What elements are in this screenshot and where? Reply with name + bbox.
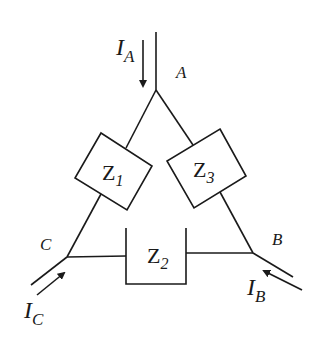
current-b-label: IB (246, 274, 266, 306)
node-a-label: A (175, 63, 187, 82)
node-c-label: C (40, 235, 52, 254)
wire-a-z1 (126, 90, 156, 148)
node-b-label: B (272, 230, 283, 249)
wire-z1-c (67, 194, 101, 257)
wire-c-z2 (67, 256, 126, 257)
current-b-arrow (264, 271, 302, 290)
current-a-label: IA (115, 34, 135, 66)
delta-circuit-diagram: IA A Z1 Z3 Z2 C IC B IB (0, 0, 321, 340)
wire-z3-b (220, 192, 253, 253)
line-b-lead (253, 253, 293, 277)
line-c-lead (31, 257, 67, 285)
impedance-z2-label: Z2 (147, 243, 168, 272)
current-c-label: IC (23, 297, 44, 329)
wire-a-z3 (156, 90, 193, 145)
